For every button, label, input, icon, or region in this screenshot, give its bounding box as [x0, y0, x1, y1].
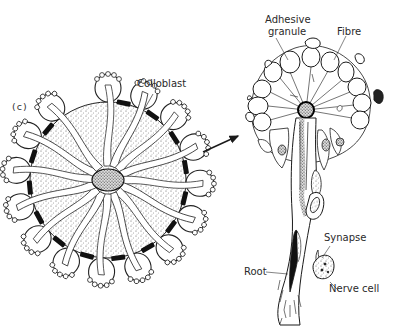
panel-label: (c)	[12, 101, 28, 112]
label-nerve-cell: Nerve cell	[329, 283, 379, 295]
central-core	[92, 169, 124, 191]
tentacle-rosette	[0, 72, 217, 289]
label-root: Root	[244, 266, 267, 278]
colloblast-cell	[246, 38, 383, 325]
colloblast-figure: (c) Colloblast Adhesive granule Fibre Sy…	[0, 0, 395, 330]
label-colloblast: Colloblast	[137, 78, 186, 90]
diagram-illustration	[0, 0, 395, 330]
label-synapse: Synapse	[324, 232, 366, 244]
label-fibre: Fibre	[337, 26, 361, 38]
label-adhesive-granule-line2: granule	[268, 26, 306, 38]
label-adhesive-granule-line1: Adhesive	[265, 14, 311, 26]
